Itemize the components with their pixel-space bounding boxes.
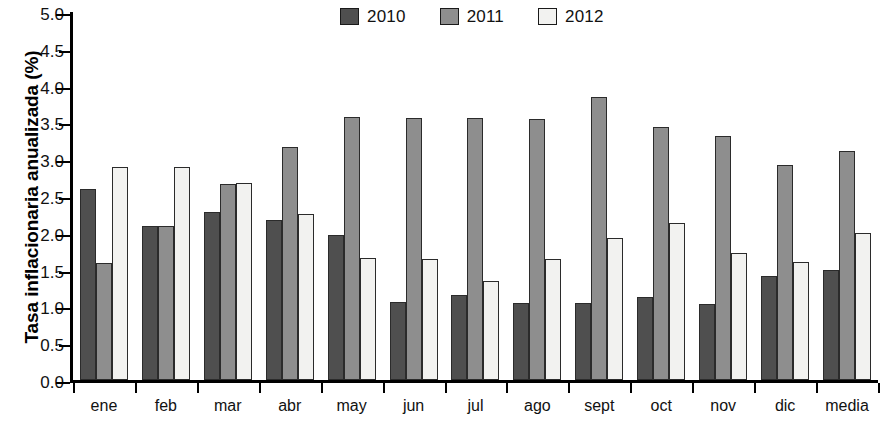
bar-mar-2010[interactable] [204, 212, 220, 380]
bar-group-abr [259, 12, 321, 380]
x-tick-label-mar: mar [197, 396, 259, 418]
bar-abr-2012[interactable] [298, 214, 314, 380]
x-tick-mark [878, 383, 880, 393]
bar-abr-2010[interactable] [266, 220, 282, 380]
x-tick-label-abr: abr [259, 396, 321, 418]
bar-feb-2010[interactable] [142, 226, 158, 380]
bar-group-feb [135, 12, 197, 380]
x-tick-mark [259, 383, 261, 393]
bar-jun-2012[interactable] [422, 259, 438, 380]
x-tick-label-media: media [816, 396, 878, 418]
bar-mar-2011[interactable] [220, 184, 236, 381]
bar-abr-2011[interactable] [282, 147, 298, 380]
y-tick-label: 4.5 [18, 43, 64, 60]
x-tick-mark [692, 383, 694, 393]
y-tick-mark [56, 308, 70, 310]
x-tick-label-sept: sept [568, 396, 630, 418]
bar-may-2010[interactable] [328, 235, 344, 380]
y-tick-mark [56, 235, 70, 237]
y-tick-label: 2.5 [18, 190, 64, 207]
bar-oct-2012[interactable] [669, 223, 685, 380]
bar-ene-2010[interactable] [80, 189, 96, 380]
bar-group-nov [692, 12, 754, 380]
plot-area [70, 12, 878, 383]
bar-ago-2011[interactable] [529, 119, 545, 380]
y-axis-tick-labels: 0.00.51.01.52.02.53.03.54.04.55.0 [18, 12, 64, 383]
x-tick-mark [568, 383, 570, 393]
bar-feb-2012[interactable] [174, 167, 190, 380]
bar-group-media [816, 12, 878, 380]
y-tick-mark [56, 88, 70, 90]
x-tick-label-dic: dic [754, 396, 816, 418]
bar-mar-2012[interactable] [236, 183, 252, 380]
x-tick-label-ago: ago [506, 396, 568, 418]
bar-jul-2011[interactable] [467, 118, 483, 380]
y-tick-label: 0.5 [18, 337, 64, 354]
y-tick-mark [56, 14, 70, 16]
x-axis-tick-labels: enefebmarabrmayjunjulagoseptoctnovdicmed… [70, 396, 878, 418]
bar-group-jun [383, 12, 445, 380]
x-tick-label-ene: ene [73, 396, 135, 418]
bar-group-sept [568, 12, 630, 380]
bar-sept-2010[interactable] [575, 303, 591, 380]
bar-oct-2010[interactable] [637, 297, 653, 380]
bar-dic-2012[interactable] [793, 262, 809, 380]
bar-ago-2012[interactable] [545, 259, 561, 380]
bar-ene-2012[interactable] [112, 167, 128, 380]
x-axis-ticks [70, 383, 878, 393]
y-tick-mark [56, 382, 70, 384]
bar-group-ago [506, 12, 568, 380]
x-tick-mark [445, 383, 447, 393]
y-tick-mark [59, 51, 70, 53]
bar-may-2011[interactable] [344, 117, 360, 380]
bar-nov-2012[interactable] [731, 253, 747, 380]
bar-jun-2011[interactable] [406, 118, 422, 380]
y-tick-label: 3.5 [18, 116, 64, 133]
bar-sept-2011[interactable] [591, 97, 607, 380]
y-tick-mark [59, 272, 70, 274]
bar-group-oct [630, 12, 692, 380]
bar-groups [73, 12, 878, 380]
bar-sept-2012[interactable] [607, 238, 623, 380]
x-tick-label-jul: jul [445, 396, 507, 418]
x-tick-label-may: may [321, 396, 383, 418]
bar-group-ene [73, 12, 135, 380]
bar-media-2010[interactable] [823, 270, 839, 380]
x-tick-label-feb: feb [135, 396, 197, 418]
x-tick-mark [73, 383, 75, 393]
bar-may-2012[interactable] [360, 258, 376, 380]
x-tick-mark [816, 383, 818, 393]
bar-group-mar [197, 12, 259, 380]
bar-jul-2012[interactable] [483, 281, 499, 380]
bar-nov-2010[interactable] [699, 304, 715, 380]
y-tick-mark [59, 198, 70, 200]
bar-jun-2010[interactable] [390, 302, 406, 380]
bar-ene-2011[interactable] [96, 263, 112, 380]
x-tick-mark [506, 383, 508, 393]
x-tick-mark [754, 383, 756, 393]
bar-media-2011[interactable] [839, 151, 855, 380]
bar-oct-2011[interactable] [653, 127, 669, 380]
bar-group-dic [754, 12, 816, 380]
bar-ago-2010[interactable] [513, 303, 529, 380]
y-tick-label: 1.5 [18, 264, 64, 281]
y-tick-mark [59, 124, 70, 126]
chart-figure: 2010 2011 2012 Tasa inflacionaria anuali… [0, 0, 884, 431]
x-tick-mark [135, 383, 137, 393]
y-tick-mark [59, 345, 70, 347]
x-tick-label-jun: jun [383, 396, 445, 418]
bar-group-jul [445, 12, 507, 380]
y-tick-mark [56, 161, 70, 163]
cutoff-caption [34, 421, 334, 431]
bar-dic-2010[interactable] [761, 276, 777, 380]
bar-feb-2011[interactable] [158, 226, 174, 380]
bar-jul-2010[interactable] [451, 295, 467, 380]
x-tick-label-nov: nov [692, 396, 754, 418]
x-tick-mark [630, 383, 632, 393]
x-tick-mark [383, 383, 385, 393]
bar-nov-2011[interactable] [715, 136, 731, 380]
bar-group-may [321, 12, 383, 380]
bar-dic-2011[interactable] [777, 165, 793, 380]
bar-media-2012[interactable] [855, 233, 871, 380]
x-tick-label-oct: oct [630, 396, 692, 418]
